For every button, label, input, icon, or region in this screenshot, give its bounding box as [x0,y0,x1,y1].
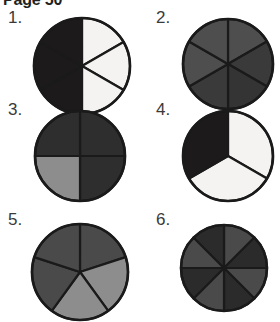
pie-6-svg [178,222,270,314]
problem-number-4: 4. [156,100,170,120]
pie-chart-1 [32,16,132,116]
problem-number-3: 3. [8,100,22,120]
problem-number-1: 1. [8,8,22,28]
pie-3-svg [32,108,128,204]
problem-number-5: 5. [8,210,22,230]
problem-number-2: 2. [156,8,170,28]
pie-chart-5 [30,222,130,322]
worksheet-page: Page 50 1. 2. 3. 4. 5. 6. [0,0,280,322]
pie-5-svg [30,222,130,322]
pie-4-svg [180,108,276,204]
problem-number-6: 6. [156,210,170,230]
pie-chart-6 [178,222,270,314]
pie-1-svg [32,16,132,116]
pie-chart-3 [32,108,128,204]
pie-2-svg [180,16,276,112]
pie-chart-2 [180,16,276,112]
pie-chart-4 [180,108,276,204]
